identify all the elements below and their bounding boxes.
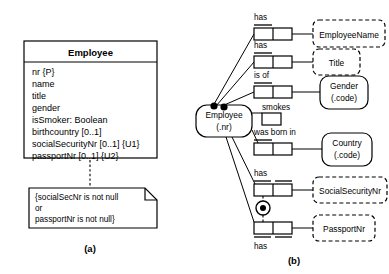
uml-attribute-birthcountry: birthcountry [0..1] xyxy=(32,127,102,137)
orm-predicate-label-country: was born in xyxy=(253,128,296,137)
uml-attribute-issmoker: isSmoker: Boolean xyxy=(32,115,108,125)
caption-b: (b) xyxy=(288,255,300,266)
figure-page: Employee nr {P} name title gender isSmok… xyxy=(0,0,389,274)
orm-value-type-socialsecuritynr-label: SocialSecurityNr xyxy=(319,186,381,196)
orm-fact-employeename: has EmployeeName xyxy=(254,13,385,47)
orm-fact-smokes: smokes xyxy=(262,103,290,125)
orm-entity-employee-ref: (.nr) xyxy=(216,122,232,132)
orm-entity-type-gender-label: Gender xyxy=(330,81,358,91)
uml-note-line-1: {socialSecNr is not null xyxy=(35,193,118,202)
orm-fact-socialsecuritynr: has SocialSecurityNr xyxy=(254,169,387,203)
orm-predicate-label-passportnr: has xyxy=(254,242,267,251)
orm-entity-employee-label: Employee xyxy=(205,110,243,120)
caption-a: (a) xyxy=(84,243,96,254)
orm-predicate-label-employeename: has xyxy=(254,13,267,22)
orm-connector-socialsecuritynr xyxy=(232,137,256,186)
orm-mandatory-dot-2 xyxy=(220,103,227,110)
orm-value-type-employeename-label: EmployeeName xyxy=(319,30,379,40)
uml-attribute-title: title xyxy=(32,91,46,101)
orm-fact-country: was born in Country (.code) xyxy=(253,128,372,166)
figure-canvas: Employee nr {P} name title gender isSmok… xyxy=(0,0,389,274)
uml-class-diagram: Employee nr {P} name title gender isSmok… xyxy=(24,41,157,254)
orm-value-type-passportnr-label: PassportNr xyxy=(323,224,365,234)
orm-entity-type-gender-ref: (.code) xyxy=(331,93,357,103)
orm-value-type-title-label: Title xyxy=(329,58,345,68)
orm-predicate-label-title: has xyxy=(254,41,267,50)
uml-note-line-3: passportNr is not null} xyxy=(35,215,115,224)
orm-predicate-label-gender: is of xyxy=(254,71,270,80)
uml-attribute-passportnr: passportNr [0..1] {U2} xyxy=(32,151,119,161)
uml-note-line-2: or xyxy=(35,204,43,213)
orm-diagram: Employee (.nr) has xyxy=(196,13,387,266)
uml-class-name: Employee xyxy=(68,47,113,58)
orm-connector-title xyxy=(216,62,254,106)
orm-connector-passportnr xyxy=(226,137,254,222)
orm-fact-passportnr: has PassportNr xyxy=(254,215,375,251)
orm-predicate-label-smokes: smokes xyxy=(262,103,290,112)
uml-attribute-gender: gender xyxy=(32,103,60,113)
orm-predicate-label-socialsecuritynr: has xyxy=(254,169,267,178)
uml-attribute-nr: nr {P} xyxy=(32,67,55,77)
orm-inclusive-or-dot xyxy=(260,205,266,211)
uml-attribute-name: name xyxy=(32,79,55,89)
orm-entity-type-country-ref: (.code) xyxy=(334,150,360,160)
orm-mandatory-dot-1 xyxy=(210,102,217,109)
orm-role-box-smokes[interactable] xyxy=(262,113,281,125)
orm-inclusive-or-constraint[interactable] xyxy=(256,196,270,222)
uml-attribute-socialsecuritynr: socialSecurityNr [0..1] {U1} xyxy=(32,139,140,149)
orm-entity-type-country-label: Country xyxy=(332,138,362,148)
